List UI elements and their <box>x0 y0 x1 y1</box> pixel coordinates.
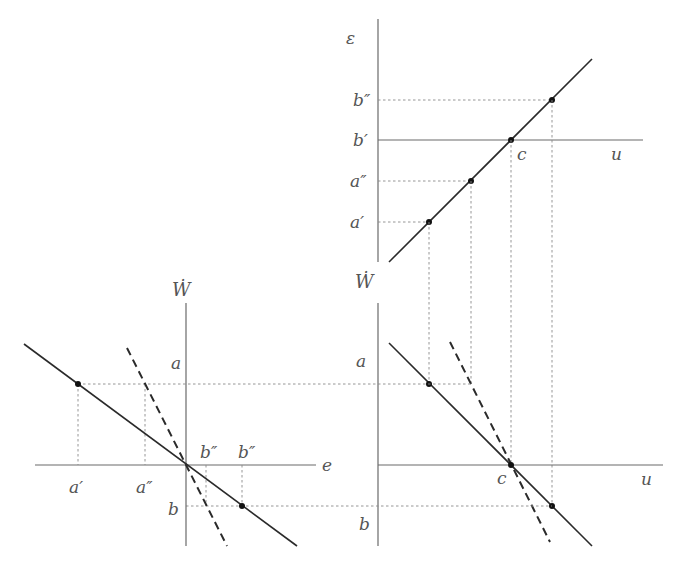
tick-a-left: a <box>171 353 181 373</box>
epsilon-u-line <box>389 59 592 262</box>
tick-a-right: a <box>356 351 366 371</box>
tick-a-double-prime: a″ <box>350 171 367 191</box>
e-label: e <box>322 455 332 475</box>
tick-b-double-prime-left-1: b″ <box>200 442 218 462</box>
w-u-solid-line <box>389 343 592 546</box>
point-b-left <box>239 503 245 509</box>
tick-a-prime-left: a′ <box>69 477 83 497</box>
point-a-left <box>75 381 81 387</box>
u-label-top: u <box>611 144 622 164</box>
top-right-graph: ε b″ b′ a″ a′ c u <box>346 19 643 262</box>
bottom-right-graph: Ẇ a b c u <box>355 270 663 546</box>
bottom-left-graph: Ẇ a b a′ a″ b″ b″ e <box>24 278 332 546</box>
w-dot-label-left: Ẇ <box>172 278 192 300</box>
w-dot-label-right: Ẇ <box>355 270 375 292</box>
tick-b-double-prime-left-2: b″ <box>238 442 256 462</box>
epsilon-label: ε <box>346 28 355 48</box>
w-e-solid-line <box>24 344 297 546</box>
point-c-label-bottom: c <box>497 468 507 488</box>
diagram-canvas: ε b″ b′ a″ a′ c u Ẇ a b c u <box>0 0 683 568</box>
tick-b-double-prime: b″ <box>353 90 371 110</box>
tick-b-right: b <box>359 514 370 534</box>
tick-a-prime: a′ <box>350 212 364 232</box>
w-u-dashed-line <box>450 342 550 542</box>
tick-b-left: b <box>168 499 179 519</box>
tick-a-double-prime-left: a″ <box>136 477 153 497</box>
tick-b-prime: b′ <box>353 130 368 150</box>
point-c-label-top: c <box>517 144 527 164</box>
u-label-bottom: u <box>641 469 652 489</box>
point-c-bottom <box>508 462 514 468</box>
